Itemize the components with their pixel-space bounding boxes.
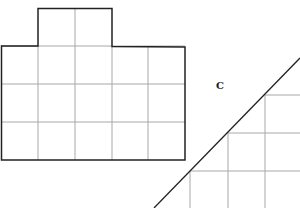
shape-label-c: C bbox=[216, 80, 224, 91]
shape-triangle bbox=[154, 58, 300, 208]
diagram-canvas bbox=[0, 0, 300, 208]
shape-grid-rectangle bbox=[1, 8, 185, 160]
triangle-grid-lines bbox=[190, 95, 300, 208]
grid-lines bbox=[1, 8, 185, 160]
